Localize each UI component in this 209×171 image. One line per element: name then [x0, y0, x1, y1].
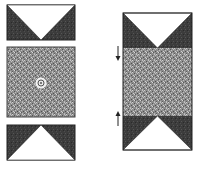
right-top-section — [123, 13, 192, 48]
arrow-up-icon — [116, 111, 121, 126]
arrow-down-icon — [116, 46, 121, 61]
left-panel — [7, 5, 75, 160]
right-middle-section — [123, 48, 192, 116]
left-top-block — [7, 5, 75, 40]
center-target-icon — [36, 78, 46, 88]
diagram-svg — [0, 0, 209, 171]
right-panel — [116, 13, 193, 150]
right-bottom-section — [123, 116, 192, 150]
diagram-canvas — [0, 0, 209, 171]
left-middle-block — [7, 47, 75, 117]
left-bottom-block — [7, 125, 75, 160]
